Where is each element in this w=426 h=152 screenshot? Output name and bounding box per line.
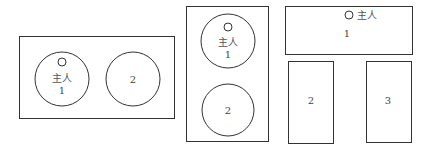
room-outline: [187, 7, 269, 142]
table-number: 1: [225, 49, 231, 60]
diagram-horizontal-room: 主人 1 2: [20, 37, 175, 119]
table-number: 2: [225, 105, 231, 116]
diagram-rect-tables: 主人 1 2 3: [286, 7, 413, 144]
round-table-1: 主人 1: [35, 52, 89, 106]
round-table-2: 2: [202, 84, 254, 136]
host-seat-icon: [345, 11, 353, 19]
diagram-vertical-room: 主人 1 2: [187, 7, 269, 142]
host-label: 主人: [218, 37, 238, 48]
rect-table-1: 主人 1: [286, 7, 413, 55]
rect-table-2: 2: [289, 62, 334, 144]
table-number: 2: [130, 74, 136, 85]
host-label: 主人: [52, 73, 72, 84]
rect-table-3: 3: [367, 62, 412, 143]
table-number: 1: [344, 28, 350, 39]
host-label: 主人: [357, 10, 377, 21]
host-seat-icon: [58, 58, 66, 66]
round-table-1: 主人 1: [201, 14, 255, 68]
table-arrangement-diagram: 主人 1 2 主人 1 2 主人 1 2: [0, 0, 426, 152]
round-table-2: 2: [106, 52, 160, 106]
room-outline: [20, 37, 175, 119]
table-number: 1: [59, 85, 65, 96]
table-number: 3: [385, 95, 391, 106]
host-seat-icon: [224, 23, 232, 31]
table-number: 2: [308, 95, 314, 106]
